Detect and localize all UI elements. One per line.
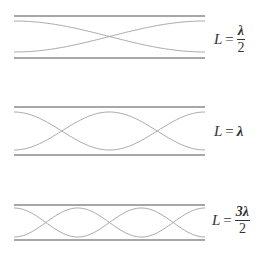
equals-sign: = — [225, 31, 233, 48]
wave-curve-lower — [14, 208, 205, 237]
fraction: 3λ 2 — [235, 205, 250, 236]
length-variable: L — [214, 123, 222, 140]
equals-sign: = — [223, 212, 231, 229]
panel-half-wavelength — [14, 16, 205, 58]
numerator: 3λ — [235, 205, 250, 221]
fraction: λ 2 — [237, 24, 245, 55]
numerator: λ — [237, 24, 245, 40]
panel-three-half-wavelength — [14, 205, 205, 240]
wave-curve-lower — [14, 21, 205, 52]
wave-curve-upper — [14, 112, 205, 150]
wave-curve-lower — [14, 112, 205, 150]
label-full-wavelength: L = λ — [214, 123, 243, 140]
wavelength-symbol: λ — [237, 123, 244, 140]
label-three-half-wavelength: L = 3λ 2 — [212, 205, 250, 236]
panel-full-wavelength — [14, 107, 205, 155]
denominator: 2 — [239, 221, 246, 236]
label-half-wavelength: L = λ 2 — [214, 24, 245, 55]
equals-sign: = — [225, 123, 233, 140]
length-variable: L — [212, 212, 220, 229]
length-variable: L — [214, 31, 222, 48]
denominator: 2 — [237, 40, 244, 55]
